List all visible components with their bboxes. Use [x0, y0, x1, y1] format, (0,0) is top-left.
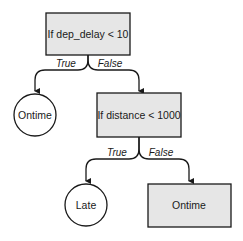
node-root: If dep_delay < 10 [46, 13, 130, 55]
edge-split-true-label: True [107, 147, 127, 158]
node-leaf-late-label: Late [76, 199, 97, 211]
edge-root-true: True [35, 55, 88, 91]
edge-split-true: True [86, 137, 139, 181]
edge-root-true-label: True [56, 58, 76, 69]
node-leaf-ontime-2-label: Ontime [172, 199, 206, 211]
node-split-distance-label: If distance < 1000 [97, 109, 180, 121]
node-leaf-ontime-2: Ontime [148, 184, 231, 227]
edge-split-false: False [139, 137, 189, 181]
node-split-distance: If distance < 1000 [97, 93, 181, 137]
node-leaf-ontime-1-label: Ontime [18, 109, 52, 121]
node-leaf-ontime-1: Ontime [14, 94, 56, 136]
edge-root-false-label: False [98, 58, 123, 69]
node-root-label: If dep_delay < 10 [48, 28, 129, 40]
edge-root-false: False [88, 55, 139, 91]
decision-tree-diagram: If dep_delay < 10 True False Ontime If d… [0, 0, 243, 241]
node-leaf-late: Late [65, 184, 107, 226]
edge-split-false-label: False [149, 147, 174, 158]
